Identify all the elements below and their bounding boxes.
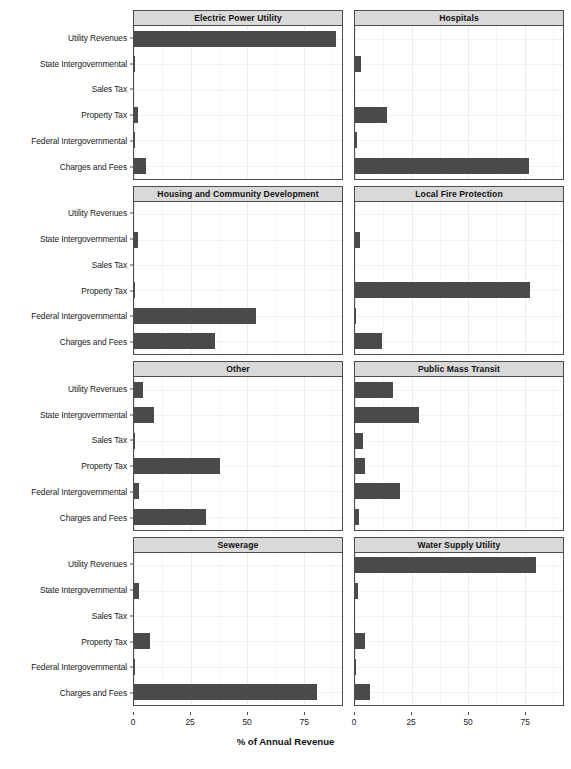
facet-title: Electric Power Utility — [194, 13, 282, 23]
x-axis-tick-label: 0 — [352, 717, 357, 727]
gridline-vertical — [191, 377, 192, 530]
y-axis-labels: Utility RevenuesState IntergovernmentalS… — [0, 10, 133, 186]
bar — [134, 458, 220, 474]
bar — [355, 458, 365, 474]
gridline-vertical — [191, 26, 192, 179]
y-axis-tick-label: Federal Intergovernmental — [31, 311, 127, 321]
gridline-horizontal — [134, 565, 342, 566]
bar — [134, 509, 206, 525]
bar — [355, 333, 382, 349]
facet-strip: Sewerage — [133, 537, 343, 552]
bar — [134, 633, 150, 649]
gridline-horizontal — [355, 466, 563, 467]
facet-strip: Hospitals — [354, 10, 564, 25]
plot-area — [354, 201, 564, 356]
gridline-vertical — [468, 553, 469, 706]
gridline-vertical-minor — [383, 202, 384, 355]
x-axis-tick — [411, 712, 412, 715]
gridline-horizontal — [134, 491, 342, 492]
bar — [355, 308, 356, 324]
gridline-horizontal — [355, 240, 563, 241]
y-axis-tick-label: Utility Revenues — [68, 559, 127, 569]
gridline-horizontal — [355, 316, 563, 317]
gridline-horizontal — [134, 214, 342, 215]
gridline-horizontal — [355, 667, 563, 668]
gridline-horizontal — [134, 140, 342, 141]
gridline-horizontal — [134, 64, 342, 65]
gridline-horizontal — [134, 415, 342, 416]
gridline-vertical — [134, 377, 135, 530]
gridline-vertical-minor — [440, 202, 441, 355]
gridline-vertical-minor — [162, 202, 163, 355]
bar — [355, 232, 360, 248]
gridline-vertical-minor — [332, 377, 333, 530]
bar — [355, 633, 365, 649]
facet-strip: Public Mass Transit — [354, 361, 564, 376]
facet-panel: Electric Power Utility — [133, 10, 343, 180]
x-axis-title: % of Annual Revenue — [0, 736, 571, 747]
y-axis-tick-label: Federal Intergovernmental — [31, 487, 127, 497]
y-axis-tick-label: Charges and Fees — [60, 337, 127, 347]
facet-panel: Water Supply Utility — [354, 537, 564, 707]
bar — [134, 659, 135, 675]
plot-area — [133, 552, 343, 707]
gridline-vertical-minor — [332, 26, 333, 179]
x-axis-right: 0255075 — [354, 712, 564, 736]
y-axis-labels: Utility RevenuesState IntergovernmentalS… — [0, 537, 133, 713]
gridline-vertical — [134, 26, 135, 179]
gridline-vertical — [134, 202, 135, 355]
gridline-vertical — [134, 553, 135, 706]
x-axis-tick — [247, 712, 248, 715]
facet-title: Public Mass Transit — [418, 364, 500, 374]
gridline-vertical — [412, 377, 413, 530]
x-axis-tick-label: 25 — [406, 717, 415, 727]
gridline-vertical-minor — [162, 26, 163, 179]
y-axis-tick-label: Charges and Fees — [60, 162, 127, 172]
gridline-vertical — [412, 202, 413, 355]
plot-area — [354, 376, 564, 531]
y-axis-tick-label: Sales Tax — [92, 84, 127, 94]
bar — [355, 382, 393, 398]
facet-title: Housing and Community Development — [157, 189, 318, 199]
gridline-vertical — [412, 26, 413, 179]
facet-panel: Local Fire Protection — [354, 186, 564, 356]
facet-panel: Housing and Community Development — [133, 186, 343, 356]
bar — [134, 282, 135, 298]
gridline-horizontal — [134, 616, 342, 617]
gridline-horizontal — [355, 641, 563, 642]
x-axis-tick — [190, 712, 191, 715]
bar — [355, 557, 536, 573]
gridline-horizontal — [355, 692, 563, 693]
bar — [355, 132, 357, 148]
y-axis-tick-label: State Intergovernmental — [40, 59, 127, 69]
bar — [134, 333, 215, 349]
x-axis-tick — [354, 712, 355, 715]
bar — [134, 407, 154, 423]
bar — [355, 583, 358, 599]
x-axis-tick — [525, 712, 526, 715]
bar — [355, 684, 370, 700]
x-axis-tick-label: 25 — [185, 717, 194, 727]
bar — [134, 483, 139, 499]
gridline-horizontal — [355, 90, 563, 91]
gridline-vertical — [525, 377, 526, 530]
gridline-vertical-minor — [332, 202, 333, 355]
y-axis-labels: Utility RevenuesState IntergovernmentalS… — [0, 361, 133, 537]
gridline-vertical-minor — [496, 553, 497, 706]
gridline-vertical-minor — [440, 26, 441, 179]
gridline-vertical — [468, 26, 469, 179]
y-axis-tick-label: Utility Revenues — [68, 384, 127, 394]
y-axis-tick-label: Property Tax — [81, 286, 127, 296]
gridline-vertical — [468, 377, 469, 530]
gridline-horizontal — [134, 290, 342, 291]
gridline-vertical — [355, 202, 356, 355]
bar — [355, 433, 363, 449]
gridline-vertical — [247, 377, 248, 530]
bar — [134, 583, 139, 599]
gridline-horizontal — [134, 90, 342, 91]
facet-title: Sewerage — [218, 540, 259, 550]
gridline-vertical-minor — [275, 553, 276, 706]
gridline-vertical — [304, 202, 305, 355]
gridline-vertical-minor — [383, 377, 384, 530]
gridline-vertical-minor — [162, 377, 163, 530]
